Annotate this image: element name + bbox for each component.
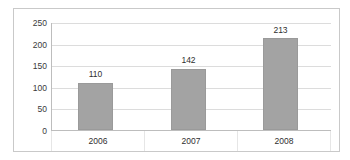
bar-2007[interactable]	[171, 69, 206, 130]
y-tick-label-50: 50	[3, 105, 47, 114]
y-axis-line	[51, 23, 52, 131]
category-label-2008: 2008	[238, 137, 330, 146]
x-axis-category-band: 2006 2007 2008	[51, 131, 331, 151]
category-label-2007: 2007	[145, 137, 237, 146]
y-tick-label-0: 0	[3, 127, 47, 136]
category-cell-2008: 2008	[237, 131, 331, 151]
chart-frame: 0 50 100 150 200 250 110 142 213	[13, 8, 340, 152]
y-tick-label-150: 150	[3, 62, 47, 71]
bar-2006[interactable]	[78, 83, 113, 131]
category-cell-2006: 2006	[51, 131, 144, 151]
y-axis: 0 50 100 150 200 250	[14, 23, 47, 131]
y-tick-label-100: 100	[3, 84, 47, 93]
plot-area: 110 142 213	[51, 23, 331, 131]
bar-2008[interactable]	[263, 38, 298, 130]
bar-value-label-2006: 110	[89, 70, 103, 79]
category-label-2006: 2006	[52, 137, 144, 146]
bar-value-label-2008: 213	[273, 26, 287, 35]
y-tick-label-250: 250	[3, 19, 47, 28]
bar-value-label-2007: 142	[181, 56, 195, 65]
gridline-250	[51, 23, 331, 24]
category-cell-2007: 2007	[144, 131, 237, 151]
y-tick-label-200: 200	[3, 40, 47, 49]
